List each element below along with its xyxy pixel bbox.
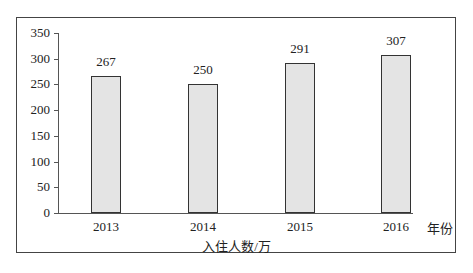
y-tick-label: 300 [14, 52, 50, 65]
y-tick [54, 136, 58, 137]
bar-value-label: 267 [86, 54, 126, 70]
y-tick [54, 213, 58, 214]
bar-value-label: 307 [376, 33, 416, 49]
x-tick-label: 2014 [178, 219, 228, 235]
y-tick-label: 0 [14, 206, 50, 219]
y-tick [54, 110, 58, 111]
bar-2016 [381, 55, 411, 213]
y-tick-label: 50 [14, 180, 50, 193]
y-tick [54, 59, 58, 60]
y-tick [54, 84, 58, 85]
y-tick-label: 250 [14, 77, 50, 90]
y-tick-label: 350 [14, 26, 50, 39]
bar-value-label: 250 [183, 62, 223, 78]
x-tick-label: 2013 [81, 219, 131, 235]
y-tick-label: 150 [14, 129, 50, 142]
x-tick-label: 2016 [371, 219, 421, 235]
y-axis [58, 33, 59, 213]
x-tick-label: 2015 [275, 219, 325, 235]
y-tick [54, 187, 58, 188]
x-axis [58, 213, 413, 214]
y-tick [54, 162, 58, 163]
bar-2014 [188, 84, 218, 213]
y-axis-title: 入住人数/万 [0, 236, 473, 255]
bar-2015 [285, 63, 315, 213]
x-axis-unit: 年份 [427, 218, 453, 237]
y-tick-label: 100 [14, 155, 50, 168]
bar-2013 [91, 76, 121, 213]
bar-value-label: 291 [280, 41, 320, 57]
y-tick [54, 33, 58, 34]
y-tick-label: 200 [14, 103, 50, 116]
